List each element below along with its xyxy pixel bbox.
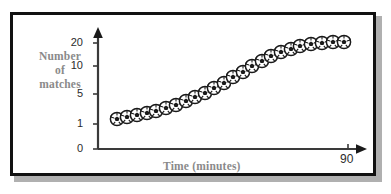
y-tick-label-5: 5 bbox=[57, 87, 83, 99]
y-tick-label-1: 1 bbox=[57, 117, 83, 129]
data-point-markers bbox=[110, 35, 350, 125]
y-tick-label-20: 20 bbox=[57, 36, 83, 48]
figure-container: Number of matches Time (minutes) 20 10 5… bbox=[0, 0, 391, 194]
x-axis-title: Time (minutes) bbox=[163, 160, 241, 172]
x-tick-label-90: 90 bbox=[340, 152, 353, 166]
chart-plot-area: Number of matches Time (minutes) 20 10 5… bbox=[13, 15, 373, 173]
y-tick-label-10: 10 bbox=[57, 59, 83, 71]
data-point-marker bbox=[337, 35, 350, 48]
x-axis bbox=[98, 144, 367, 154]
figure-frame: Number of matches Time (minutes) 20 10 5… bbox=[10, 12, 376, 176]
y-tick-label-0: 0 bbox=[57, 142, 83, 154]
